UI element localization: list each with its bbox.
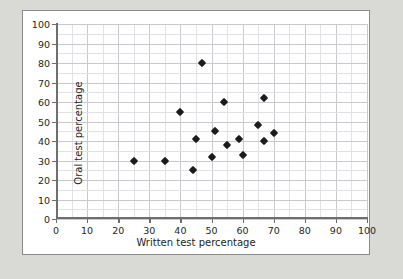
x-axis-tick-label: 100 <box>358 225 376 236</box>
gridline-horizontal <box>56 170 367 171</box>
x-axis-tick-label: 30 <box>143 225 155 236</box>
gridline-horizontal <box>56 63 367 64</box>
gridline-horizontal <box>56 92 367 93</box>
y-axis-tick-label: 20 <box>38 175 50 186</box>
data-point <box>130 156 138 164</box>
data-point <box>161 156 169 164</box>
gridline-horizontal <box>56 141 367 142</box>
y-axis-tick-label: 30 <box>38 155 50 166</box>
x-axis-tick <box>274 219 275 223</box>
y-axis-tick-label: 60 <box>38 97 50 108</box>
y-axis-tick-label: 40 <box>38 136 50 147</box>
x-axis-tick <box>243 219 244 223</box>
gridline-horizontal <box>56 209 367 210</box>
y-axis-tick-label: 100 <box>32 19 50 30</box>
x-axis-tick <box>87 219 88 223</box>
x-axis-tick <box>367 219 368 223</box>
y-axis-tick-label: 90 <box>38 38 50 49</box>
x-axis-tick <box>180 219 181 223</box>
y-axis-title: Oral test percentage <box>73 81 84 184</box>
x-axis-tick <box>118 219 119 223</box>
gridline-horizontal <box>56 180 367 181</box>
gridline-horizontal <box>56 83 367 84</box>
x-axis-tick-label: 80 <box>299 225 311 236</box>
x-axis-title: Written test percentage <box>136 237 255 248</box>
y-axis-tick <box>52 219 56 220</box>
gridline-horizontal <box>56 44 367 45</box>
data-point <box>176 108 184 116</box>
y-axis-tick-label: 0 <box>44 214 50 225</box>
gridline-horizontal <box>56 24 367 25</box>
x-axis-tick-label: 40 <box>174 225 186 236</box>
chart-figure: 0102030405060708090100010203040506070809… <box>22 10 370 255</box>
y-axis-tick-label: 10 <box>38 194 50 205</box>
gridline-horizontal <box>56 34 367 35</box>
y-axis-tick-label: 70 <box>38 77 50 88</box>
plot-wrapper: 0102030405060708090100010203040506070809… <box>23 11 369 254</box>
x-axis-line <box>56 217 368 219</box>
y-axis-tick-label: 50 <box>38 116 50 127</box>
gridline-horizontal <box>56 102 367 103</box>
x-axis-tick-label: 50 <box>205 225 217 236</box>
gridline-horizontal <box>56 53 367 54</box>
x-axis-tick-label: 70 <box>268 225 280 236</box>
x-axis-tick-label: 10 <box>81 225 93 236</box>
y-axis-tick-label: 80 <box>38 58 50 69</box>
x-axis-tick <box>149 219 150 223</box>
data-point <box>192 135 200 143</box>
gridline-vertical <box>367 24 368 219</box>
x-axis-tick <box>212 219 213 223</box>
x-axis-tick-label: 60 <box>237 225 249 236</box>
x-axis-tick-label: 20 <box>112 225 124 236</box>
data-point <box>260 137 268 145</box>
gridline-horizontal <box>56 190 367 191</box>
gridline-horizontal <box>56 112 367 113</box>
gridline-horizontal <box>56 73 367 74</box>
data-point <box>198 59 206 67</box>
gridline-horizontal <box>56 200 367 201</box>
gridline-horizontal <box>56 151 367 152</box>
x-axis-tick <box>305 219 306 223</box>
x-axis-tick <box>336 219 337 223</box>
data-point <box>269 129 277 137</box>
gridline-horizontal <box>56 122 367 123</box>
x-axis-tick <box>56 219 57 223</box>
x-axis-tick-label: 0 <box>53 225 59 236</box>
scatter-plot-area: 0102030405060708090100010203040506070809… <box>56 24 367 219</box>
x-axis-tick-label: 90 <box>330 225 342 236</box>
y-axis-line <box>56 23 58 219</box>
